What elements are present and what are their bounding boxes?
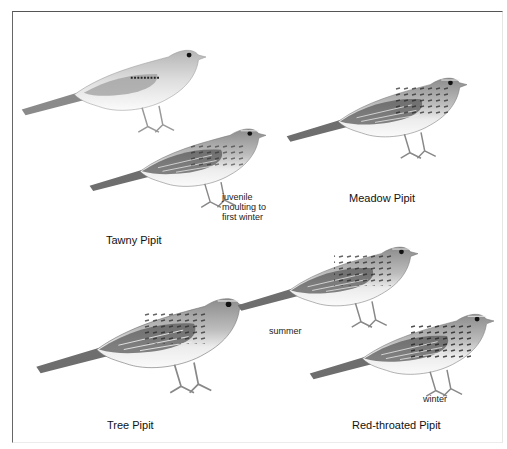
meadow-pipit-illustration xyxy=(283,50,467,180)
tree-pipit-label: Tree Pipit xyxy=(107,419,154,431)
tawny-note-first-winter: first winter xyxy=(222,212,263,222)
meadow-pipit-label: Meadow Pipit xyxy=(349,192,415,204)
red-throated-pipit-winter-illustration xyxy=(306,288,494,416)
tree-pipit-illustration xyxy=(32,276,248,408)
tawny-pipit-label: Tawny Pipit xyxy=(106,234,162,246)
red-throated-pipit-label: Red-throated Pipit xyxy=(352,419,441,431)
red-throated-summer-note: summer xyxy=(269,326,302,336)
tawny-note-juvenile: juvenile xyxy=(222,192,253,202)
tawny-note-moulting: moulting to xyxy=(222,202,266,212)
red-throated-winter-note: winter xyxy=(423,394,447,404)
